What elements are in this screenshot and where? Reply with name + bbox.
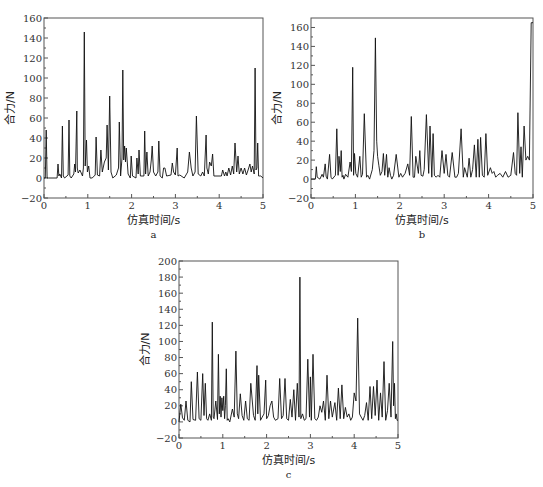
line-chart-c: −20020406080100120140160180200012345仿真时间…: [140, 245, 420, 487]
y-tick-label: 40: [296, 136, 309, 147]
y-tick-label: 40: [29, 133, 42, 144]
force-series-line: [44, 32, 263, 178]
line-chart-b: −20020406080100120140160012345仿真时间/s合力/N…: [270, 0, 543, 240]
panel-label: a: [151, 229, 157, 240]
x-tick-label: 5: [530, 200, 536, 211]
y-tick-label: 140: [290, 41, 309, 52]
x-tick-label: 0: [176, 440, 182, 451]
x-tick-label: 1: [85, 200, 91, 211]
y-tick-label: 20: [29, 153, 42, 164]
y-tick-label: −20: [156, 433, 177, 444]
y-tick-label: 20: [296, 155, 309, 166]
x-tick-label: 4: [485, 200, 491, 211]
y-tick-label: 180: [158, 272, 177, 283]
y-tick-label: 100: [158, 336, 177, 347]
x-tick-label: 5: [395, 440, 401, 451]
y-axis-title: 合力/N: [270, 91, 284, 125]
y-tick-label: 120: [290, 60, 309, 71]
y-tick-label: 0: [171, 416, 177, 427]
force-series-line: [179, 277, 398, 422]
x-tick-label: 1: [220, 440, 226, 451]
y-axis-title: 合力/N: [3, 91, 17, 125]
y-tick-label: 80: [164, 352, 177, 363]
x-tick-label: 2: [397, 200, 403, 211]
x-tick-label: 3: [441, 200, 447, 211]
y-tick-label: 20: [164, 400, 177, 411]
y-tick-label: 140: [158, 304, 177, 315]
y-tick-label: 60: [164, 368, 177, 379]
y-tick-label: 160: [23, 13, 42, 24]
chart-panel-b: −20020406080100120140160012345仿真时间/s合力/N…: [270, 0, 543, 240]
panel-label: c: [286, 469, 292, 480]
y-tick-label: −20: [288, 193, 309, 204]
y-tick-label: 140: [23, 33, 42, 44]
x-tick-label: 2: [263, 440, 269, 451]
x-axis-title: 仿真时间/s: [127, 213, 181, 227]
line-chart-a: −20020406080100120140160012345仿真时间/s合力/N…: [0, 0, 270, 240]
x-tick-label: 4: [216, 200, 222, 211]
panel-label: b: [419, 229, 425, 240]
x-tick-label: 3: [172, 200, 178, 211]
force-series-line: [311, 23, 533, 179]
x-axis-title: 仿真时间/s: [262, 453, 316, 467]
y-tick-label: 200: [158, 256, 177, 267]
y-tick-label: 100: [23, 73, 42, 84]
y-tick-label: 160: [158, 288, 177, 299]
y-tick-label: 80: [296, 98, 309, 109]
x-tick-label: 0: [41, 200, 47, 211]
y-tick-label: 120: [23, 53, 42, 64]
x-tick-label: 3: [307, 440, 313, 451]
y-tick-label: 100: [290, 79, 309, 90]
x-tick-label: 0: [308, 200, 314, 211]
y-tick-label: 60: [296, 117, 309, 128]
x-axis-title: 仿真时间/s: [395, 213, 449, 227]
chart-panel-c: −20020406080100120140160180200012345仿真时间…: [140, 245, 420, 487]
y-tick-label: 0: [36, 173, 42, 184]
x-tick-label: 2: [128, 200, 134, 211]
y-tick-label: 80: [29, 93, 42, 104]
y-tick-label: 60: [29, 113, 42, 124]
y-tick-label: 160: [290, 22, 309, 33]
plot-frame: [311, 18, 533, 198]
y-tick-label: −20: [21, 193, 42, 204]
x-axis: 012345: [308, 194, 536, 211]
x-tick-label: 4: [351, 440, 357, 451]
x-tick-label: 1: [352, 200, 358, 211]
x-axis: 012345: [41, 194, 266, 211]
chart-panel-a: −20020406080100120140160012345仿真时间/s合力/N…: [0, 0, 270, 240]
y-tick-label: 120: [158, 320, 177, 331]
x-tick-label: 5: [260, 200, 266, 211]
y-axis-title: 合力/N: [138, 333, 152, 367]
x-axis: 012345: [176, 434, 401, 451]
y-tick-label: 40: [164, 384, 177, 395]
y-tick-label: 0: [303, 174, 309, 185]
